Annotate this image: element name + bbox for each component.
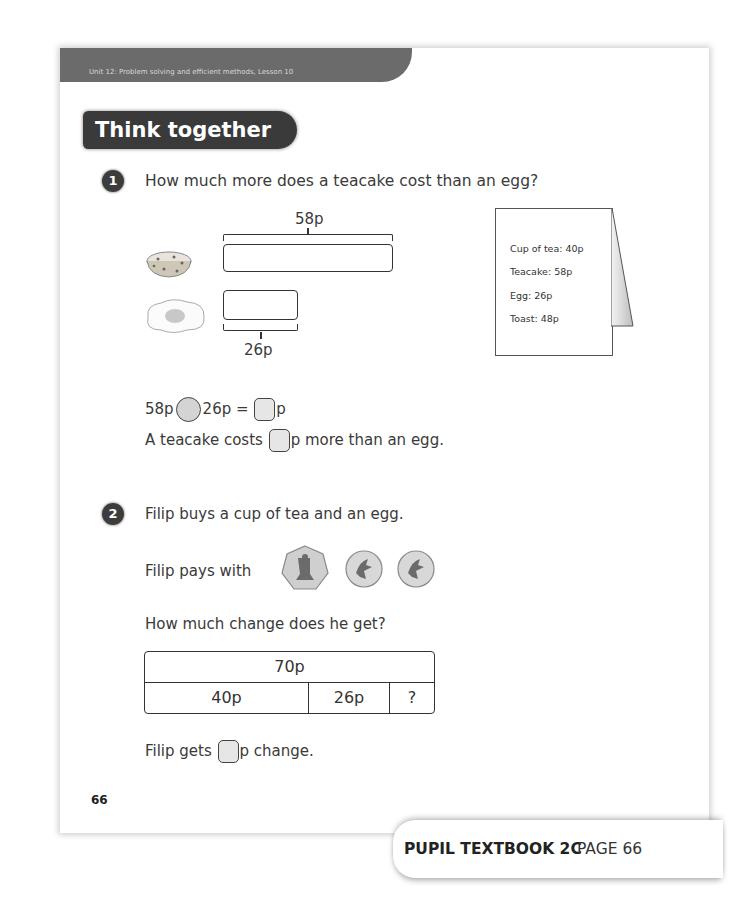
sentence-before: A teacake costs xyxy=(145,431,263,449)
menu-item: Cup of tea: 40p xyxy=(510,243,584,254)
bar-part-unknown: ? xyxy=(390,683,434,713)
equation-right: 26p = xyxy=(203,400,249,418)
brace-tick xyxy=(260,332,262,339)
bar-part-egg: 26p xyxy=(309,683,390,713)
coin-50p-icon xyxy=(280,544,330,598)
bar-part-tea: 40p xyxy=(145,683,309,713)
menu-item: Teacake: 58p xyxy=(510,266,572,277)
change-bar-model: 70p 40p 26p ? xyxy=(144,651,435,714)
bar-bottom-label: 26p xyxy=(244,341,273,359)
sentence-after: p more than an egg. xyxy=(291,431,444,449)
textbook-page: Unit 12: Problem solving and efficient m… xyxy=(60,48,709,833)
difference-answer-box[interactable] xyxy=(254,398,275,421)
coin-10p-icon xyxy=(396,549,436,593)
equation-row: 58p26p = p xyxy=(145,397,286,422)
egg-bar xyxy=(223,290,298,320)
egg-icon xyxy=(143,297,209,339)
question-number-2: 2 xyxy=(102,503,124,525)
equation-left: 58p xyxy=(145,400,174,418)
price-menu-card: Cup of tea: 40p Teacake: 58p Egg: 26p To… xyxy=(495,208,613,356)
bar-total: 70p xyxy=(145,652,434,683)
section-title: Think together xyxy=(83,111,297,149)
top-brace xyxy=(223,234,393,241)
coin-10p-icon xyxy=(344,549,384,593)
menu-item: Toast: 48p xyxy=(510,313,559,324)
equation-unit: p xyxy=(276,400,286,418)
sentence-before: Filip gets xyxy=(145,742,212,760)
sentence-after: p change. xyxy=(240,742,314,760)
change-sentence: Filip gets p change. xyxy=(145,740,314,763)
teacake-icon xyxy=(144,246,194,284)
question-1-text: How much more does a teacake cost than a… xyxy=(145,172,538,190)
footer-page-reference: PUPIL TEXTBOOK 2C PAGE 66 xyxy=(393,820,723,878)
teacake-bar xyxy=(223,244,393,272)
change-question: How much change does he get? xyxy=(145,615,386,633)
teacake-sentence: A teacake costs p more than an egg. xyxy=(145,429,444,452)
pays-with-label: Filip pays with xyxy=(145,562,251,580)
unit-header-bar: Unit 12: Problem solving and efficient m… xyxy=(60,48,412,82)
operator-answer-circle[interactable] xyxy=(176,397,201,422)
bottom-brace xyxy=(223,324,298,331)
bar-top-label: 58p xyxy=(295,210,324,228)
question-2-text: Filip buys a cup of tea and an egg. xyxy=(145,505,404,523)
footer-book-title: PUPIL TEXTBOOK 2C xyxy=(404,840,582,858)
unit-label: Unit 12: Problem solving and efficient m… xyxy=(89,68,293,76)
change-answer-box[interactable] xyxy=(218,740,239,763)
menu-item: Egg: 26p xyxy=(510,290,552,301)
question-number-1: 1 xyxy=(102,170,124,192)
page-number: 66 xyxy=(91,793,108,807)
teacake-answer-box[interactable] xyxy=(269,429,290,452)
footer-page: PAGE 66 xyxy=(577,840,642,858)
menu-card-fold xyxy=(611,208,637,332)
